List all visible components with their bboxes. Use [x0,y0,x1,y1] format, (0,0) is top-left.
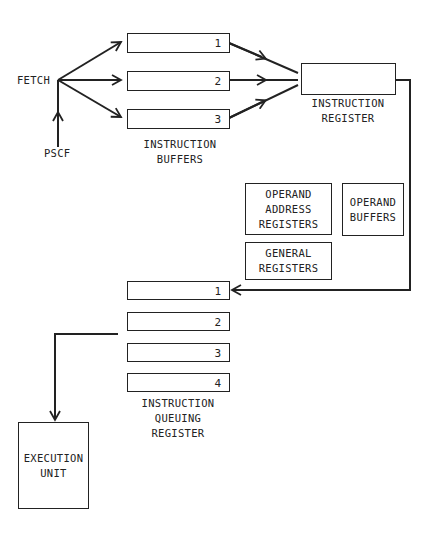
fetch-to-buffer-1-arrow [58,42,121,80]
instruction-buffer-3: 3 [127,109,230,129]
instruction-buffer-1: 1 [127,33,230,53]
queue-slot-2: 2 [127,312,230,331]
instruction-register-label: INSTRUCTION REGISTER [298,96,398,126]
queue-slot-3: 3 [127,343,230,362]
queue-slot-4: 4 [127,373,230,392]
fetch-label: FETCH [17,73,50,88]
instruction-register [301,63,396,95]
fetch-to-buffer-3-arrow [58,80,121,117]
instruction-buffer-2: 2 [127,71,230,91]
queue-slot-1: 1 [127,281,230,300]
queue-to-execution-arrow [55,334,118,420]
operand-buffers: OPERAND BUFFERS [342,183,404,236]
general-registers: GENERAL REGISTERS [245,242,332,280]
instruction-buffers-label: INSTRUCTION BUFFERS [130,137,230,167]
instruction-queuing-register-label: INSTRUCTION QUEUING REGISTER [128,396,228,441]
operand-address-registers: OPERAND ADDRESS REGISTERS [245,183,332,235]
execution-unit: EXECUTION UNIT [18,422,89,509]
pscf-label: PSCF [44,146,71,161]
